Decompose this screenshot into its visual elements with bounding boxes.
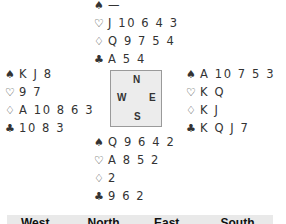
east-hand: ♠A 10 7 5 3 ♡K Q ♢K J ♣K Q J 7 [186,65,275,137]
spade-icon: ♠ [5,66,19,84]
north-spades: ♠— [94,0,179,14]
auction-header: West North East South [7,215,273,224]
club-icon: ♣ [5,120,19,138]
west-hearts: ♡9 7 [5,83,94,101]
compass-south: S [134,111,141,122]
west-diamonds: ♢A 10 8 6 3 [5,101,94,119]
diamond-icon: ♢ [94,33,108,51]
south-spades: ♠Q 9 6 4 2 [94,133,175,151]
club-icon: ♣ [94,51,108,69]
heart-icon: ♡ [186,84,200,102]
diamond-icon: ♢ [186,102,200,120]
compass-west: W [117,92,126,103]
west-spades: ♠K J 8 [5,65,94,83]
east-diamonds: ♢K J [186,101,275,119]
west-clubs: ♣10 8 3 [5,119,94,137]
compass-box: N W E S [110,70,162,127]
header-west: West [7,215,74,224]
diamond-icon: ♢ [5,102,19,120]
south-hand: ♠Q 9 6 4 2 ♡A 8 5 2 ♢2 ♣9 6 2 [94,133,175,205]
south-hearts: ♡A 8 5 2 [94,151,175,169]
header-east: East [140,215,207,224]
compass-east: E [149,92,156,103]
spade-icon: ♠ [94,0,108,15]
heart-icon: ♡ [94,152,108,170]
header-north: North [74,215,141,224]
spade-icon: ♠ [186,66,200,84]
diamond-icon: ♢ [94,170,108,188]
east-spades: ♠A 10 7 5 3 [186,65,275,83]
north-hearts: ♡J 10 6 4 3 [94,14,179,32]
heart-icon: ♡ [94,15,108,33]
compass-north: N [133,74,140,85]
west-hand: ♠K J 8 ♡9 7 ♢A 10 8 6 3 ♣10 8 3 [5,65,94,137]
south-clubs: ♣9 6 2 [94,187,175,205]
east-clubs: ♣K Q J 7 [186,119,275,137]
header-south: South [207,215,274,224]
north-diamonds: ♢Q 9 7 5 4 [94,32,179,50]
north-clubs: ♣A 5 4 [94,50,179,68]
spade-icon: ♠ [94,134,108,152]
north-hand: ♠— ♡J 10 6 4 3 ♢Q 9 7 5 4 ♣A 5 4 [94,0,179,68]
east-hearts: ♡K Q [186,83,275,101]
club-icon: ♣ [94,188,108,206]
heart-icon: ♡ [5,84,19,102]
club-icon: ♣ [186,120,200,138]
south-diamonds: ♢2 [94,169,175,187]
